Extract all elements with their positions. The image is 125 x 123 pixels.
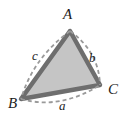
side-label-c: c [32, 49, 38, 62]
vertex-label-a: A [63, 7, 72, 22]
side-label-a: a [59, 99, 66, 112]
geometry-figure: A B C a b c [0, 0, 125, 123]
side-label-b: b [89, 51, 96, 64]
vertex-label-c: C [108, 82, 118, 97]
vertex-label-b: B [8, 96, 17, 111]
triangle-shape [21, 31, 100, 99]
